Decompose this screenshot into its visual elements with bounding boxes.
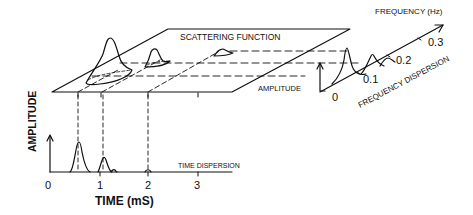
freq-tick-0.3: 0.3 [428, 36, 443, 48]
time-tick-2: 2 [145, 179, 151, 191]
time-peak-1 [70, 142, 90, 172]
time-tick-0: 0 [45, 179, 51, 191]
time-amplitude-label: AMPLITUDE [26, 91, 38, 152]
time-axis-title: TIME (mS) [95, 194, 154, 208]
time-projection-lines [78, 95, 148, 172]
freq-tick-0: 0 [332, 91, 338, 103]
plane-ticks [78, 93, 198, 97]
scattering-function-label: SCATTERING FUNCTION [180, 32, 280, 42]
frequency-ticks [357, 38, 421, 74]
freq-amplitude-label: AMPLITUDE [258, 84, 301, 93]
freq-tick-0.2: 0.2 [396, 54, 411, 66]
time-peak-2 [98, 157, 112, 172]
freq-tick-0.1: 0.1 [363, 73, 378, 85]
scattering-peak-small [214, 49, 233, 56]
time-tick-1: 1 [97, 179, 103, 191]
time-dispersion-label: TIME DISPERSION [178, 162, 240, 169]
time-ticks [100, 172, 198, 176]
freq-peak-1 [332, 48, 366, 84]
plane-time-grid [78, 52, 218, 92]
time-tick-3: 3 [194, 179, 200, 191]
frequency-axis-title: FREQUENCY (Hz) [375, 7, 443, 16]
scattering-diagram: SCATTERING FUNCTION FREQUENCY (Hz) AMPLI… [0, 0, 473, 215]
